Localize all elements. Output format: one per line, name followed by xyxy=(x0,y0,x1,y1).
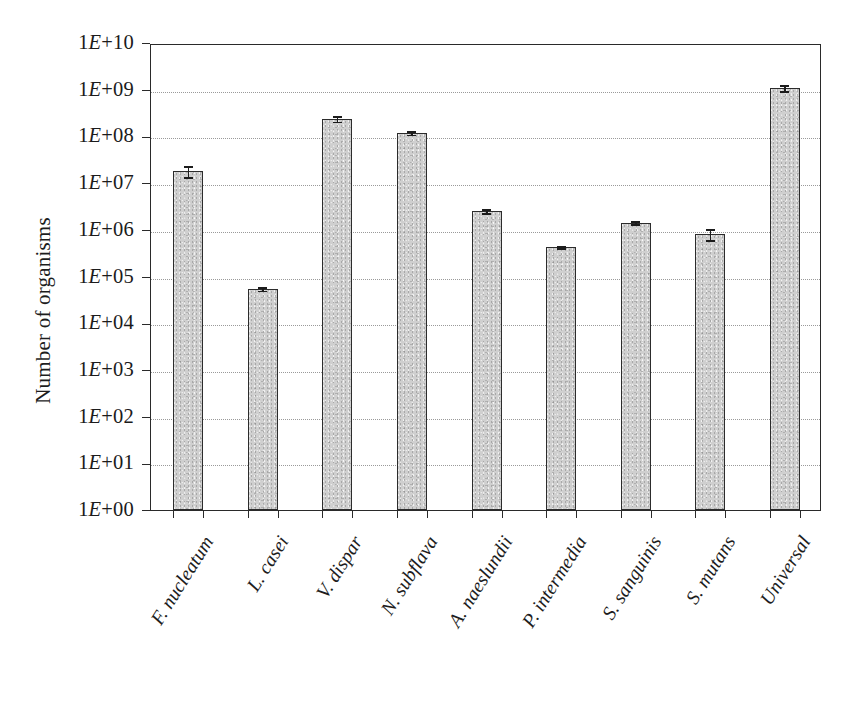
y-tick-mark xyxy=(142,370,150,371)
bar xyxy=(770,88,800,510)
x-tick-mark xyxy=(576,510,577,518)
gridline xyxy=(151,185,820,186)
error-bar-cap-top xyxy=(706,229,715,231)
y-tick-label: 1E+09 xyxy=(78,78,134,101)
bar xyxy=(322,119,352,510)
chart-figure: Number of organisms 1E+101E+091E+081E+07… xyxy=(0,0,864,705)
x-tick-mark xyxy=(397,510,398,518)
error-bar-cap-top xyxy=(482,209,491,211)
error-bar-cap-top xyxy=(333,116,342,118)
error-bar xyxy=(258,287,267,292)
y-tick-mark xyxy=(142,417,150,418)
error-bar xyxy=(333,116,342,124)
error-bar-cap-bottom xyxy=(631,224,640,226)
error-bar xyxy=(482,209,491,215)
y-tick-label: 1E+06 xyxy=(78,218,134,241)
y-tick-label: 1E+02 xyxy=(78,405,134,428)
y-tick-mark xyxy=(142,137,150,138)
x-tick-mark xyxy=(248,510,249,518)
error-bar-cap-top xyxy=(780,85,789,87)
error-bar-cap-top xyxy=(258,287,267,289)
y-tick-mark xyxy=(142,510,150,511)
bar xyxy=(621,223,651,510)
bar xyxy=(173,171,203,510)
error-bar xyxy=(557,246,566,250)
bar xyxy=(397,133,427,510)
y-tick-label: 1E+00 xyxy=(78,498,134,521)
error-bar-cap-bottom xyxy=(780,91,789,93)
gridline xyxy=(151,138,820,139)
error-bar-cap-bottom xyxy=(706,240,715,242)
error-bar-cap-bottom xyxy=(333,122,342,124)
x-axis-label: Universal xyxy=(675,532,816,705)
y-tick-label: 1E+08 xyxy=(78,124,134,147)
y-axis-title: Number of organisms xyxy=(31,141,56,481)
error-bar xyxy=(780,85,789,92)
x-tick-mark xyxy=(322,510,323,518)
error-bar-cap-top xyxy=(184,166,193,168)
x-tick-mark xyxy=(546,510,547,518)
y-tick-mark xyxy=(142,324,150,325)
y-tick-label: 1E+04 xyxy=(78,311,134,334)
error-bar-cap-bottom xyxy=(258,291,267,293)
error-bar xyxy=(407,131,416,137)
x-tick-mark xyxy=(427,510,428,518)
x-tick-mark xyxy=(725,510,726,518)
bar xyxy=(248,289,278,510)
y-tick-mark xyxy=(142,230,150,231)
x-tick-mark xyxy=(770,510,771,518)
error-bar-cap-top xyxy=(407,131,416,133)
gridline xyxy=(151,92,820,93)
x-tick-mark xyxy=(800,510,801,518)
error-bar xyxy=(631,221,640,226)
y-tick-mark xyxy=(142,90,150,91)
x-tick-mark xyxy=(695,510,696,518)
x-tick-mark xyxy=(203,510,204,518)
x-tick-mark xyxy=(278,510,279,518)
error-bar-cap-top xyxy=(631,221,640,223)
y-tick-label: 1E+10 xyxy=(78,31,134,54)
y-tick-mark xyxy=(142,277,150,278)
x-tick-mark xyxy=(352,510,353,518)
error-bar-cap-bottom xyxy=(482,213,491,215)
x-tick-mark xyxy=(472,510,473,518)
y-tick-mark xyxy=(142,464,150,465)
plot-area xyxy=(150,44,821,511)
x-tick-mark xyxy=(173,510,174,518)
error-bar-cap-bottom xyxy=(407,135,416,137)
bar xyxy=(472,211,502,510)
y-tick-label: 1E+01 xyxy=(78,451,134,474)
error-bar-cap-bottom xyxy=(184,177,193,179)
x-tick-mark xyxy=(651,510,652,518)
y-tick-label: 1E+05 xyxy=(78,265,134,288)
y-tick-mark xyxy=(142,43,150,44)
error-bar-cap-bottom xyxy=(557,248,566,250)
y-tick-label: 1E+07 xyxy=(78,171,134,194)
y-tick-mark xyxy=(142,183,150,184)
bar xyxy=(695,234,725,510)
x-tick-mark xyxy=(502,510,503,518)
error-bar xyxy=(706,229,715,242)
x-tick-mark xyxy=(621,510,622,518)
y-tick-label: 1E+03 xyxy=(78,358,134,381)
error-bar xyxy=(184,166,193,178)
bar xyxy=(546,247,576,510)
